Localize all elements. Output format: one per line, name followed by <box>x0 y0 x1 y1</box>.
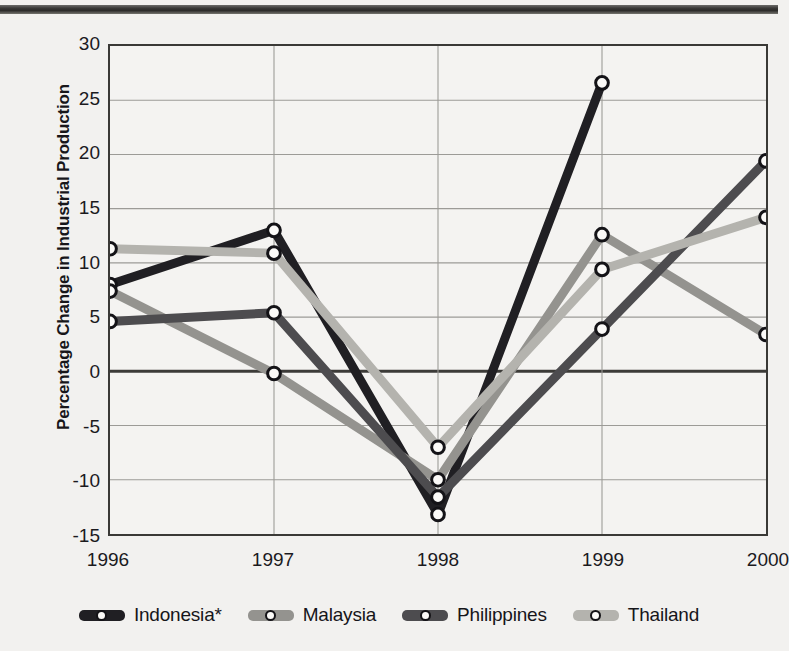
data-point-marker <box>596 77 609 90</box>
data-point <box>760 155 766 168</box>
data-point <box>268 306 281 319</box>
data-point <box>596 263 609 276</box>
legend-marker-icon <box>590 610 601 621</box>
legend-color-swatch <box>402 610 448 621</box>
data-point <box>268 247 281 260</box>
y-axis-tick-label: 15 <box>52 197 100 219</box>
data-point-marker <box>432 491 445 504</box>
y-axis-tick-label: 30 <box>52 33 100 55</box>
data-point-marker <box>596 228 609 241</box>
line-chart-svg <box>110 46 766 534</box>
legend-color-swatch <box>79 610 125 621</box>
x-axis-tick-label: 1996 <box>87 549 129 571</box>
x-axis-tick-label: 1998 <box>417 549 459 571</box>
data-point <box>596 228 609 241</box>
data-point-marker <box>268 247 281 260</box>
data-point <box>432 508 445 521</box>
legend-color-swatch <box>248 610 294 621</box>
chart-legend: Indonesia*MalaysiaPhilippinesThailand <box>0 604 778 626</box>
data-point-marker <box>268 306 281 319</box>
x-axis-tick-label: 1999 <box>582 549 624 571</box>
y-axis-tick-label: -10 <box>52 470 100 492</box>
data-point-marker <box>110 315 116 328</box>
data-point-marker <box>268 224 281 237</box>
data-point-marker <box>432 508 445 521</box>
data-point <box>760 211 766 224</box>
header-rule <box>0 5 778 14</box>
data-point <box>432 441 445 454</box>
y-axis-tick-label: -5 <box>52 416 100 438</box>
legend-marker-icon <box>96 610 107 621</box>
series-line <box>110 83 602 515</box>
data-point <box>110 315 116 328</box>
data-point-marker <box>268 367 281 380</box>
legend-item[interactable]: Thailand <box>573 604 699 626</box>
data-point <box>110 242 116 255</box>
data-point-marker <box>596 323 609 336</box>
data-point-marker <box>110 242 116 255</box>
data-point <box>432 491 445 504</box>
data-point-marker <box>760 211 766 224</box>
legend-color-swatch <box>573 610 619 621</box>
data-point-marker <box>760 155 766 168</box>
y-axis-tick-label: -15 <box>52 525 100 547</box>
legend-marker-icon <box>420 610 431 621</box>
data-point <box>760 328 766 341</box>
data-point <box>268 367 281 380</box>
y-axis-tick-label: 20 <box>52 142 100 164</box>
legend-item-label: Thailand <box>628 604 699 626</box>
data-point-marker <box>760 328 766 341</box>
data-point-marker <box>596 263 609 276</box>
legend-item-label: Malaysia <box>303 604 376 626</box>
y-axis-tick-labels: 302520151050-5-10-15 <box>48 44 100 536</box>
y-axis-tick-label: 5 <box>52 306 100 328</box>
legend-item[interactable]: Philippines <box>402 604 547 626</box>
data-point <box>596 77 609 90</box>
x-axis-tick-label: 2000 <box>747 549 789 571</box>
y-axis-tick-label: 0 <box>52 361 100 383</box>
data-point <box>596 323 609 336</box>
x-axis-tick-label: 1997 <box>252 549 294 571</box>
y-axis-tick-label: 10 <box>52 252 100 274</box>
y-axis-tick-label: 25 <box>52 88 100 110</box>
legend-item-label: Indonesia* <box>134 604 222 626</box>
x-axis-tick-labels: 19961997199819992000 <box>108 549 768 579</box>
data-point <box>110 285 116 298</box>
data-point <box>432 473 445 486</box>
data-point-marker <box>432 441 445 454</box>
plot-area <box>108 44 768 536</box>
data-point-marker <box>110 285 116 298</box>
legend-item[interactable]: Malaysia <box>248 604 376 626</box>
data-point <box>268 224 281 237</box>
legend-marker-icon <box>265 610 276 621</box>
legend-item[interactable]: Indonesia* <box>79 604 222 626</box>
legend-item-label: Philippines <box>457 604 547 626</box>
data-point-marker <box>432 473 445 486</box>
